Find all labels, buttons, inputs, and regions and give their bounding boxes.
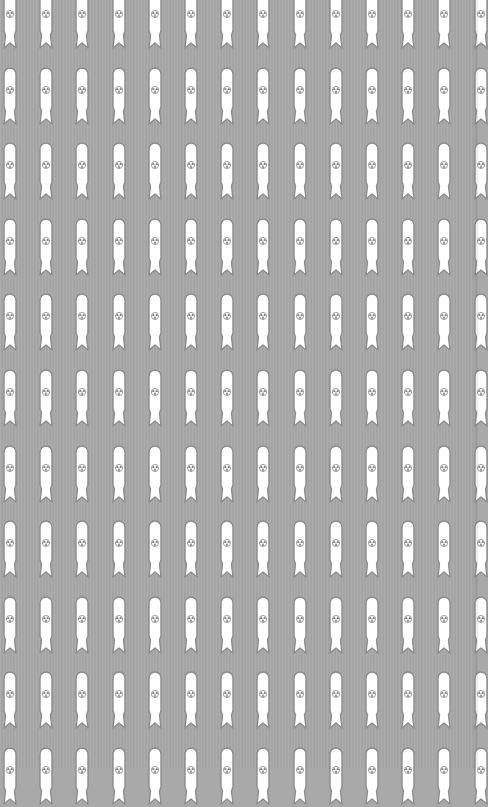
bomb-icon bbox=[401, 671, 415, 731]
bomb-body bbox=[4, 219, 16, 275]
bomb-body bbox=[221, 294, 233, 350]
bomb-icon bbox=[112, 0, 126, 51]
bomb-icon bbox=[3, 369, 17, 429]
bomb-body bbox=[438, 219, 450, 275]
bomb-tile bbox=[437, 520, 451, 580]
bomb-body bbox=[149, 294, 161, 350]
bomb-body bbox=[366, 68, 378, 124]
bomb-icon bbox=[256, 67, 270, 127]
bomb-tile bbox=[365, 0, 379, 51]
bomb-icon bbox=[75, 596, 89, 656]
bomb-tile bbox=[39, 369, 53, 429]
bomb-icon bbox=[220, 747, 234, 807]
bomb-body bbox=[402, 68, 414, 124]
bomb-tile bbox=[437, 293, 451, 353]
bomb-icon bbox=[293, 747, 307, 807]
bomb-icon bbox=[39, 142, 53, 202]
bomb-icon bbox=[148, 671, 162, 731]
bomb-icon bbox=[293, 142, 307, 202]
bomb-body bbox=[149, 672, 161, 728]
bomb-tile bbox=[401, 142, 415, 202]
bomb-icon bbox=[220, 142, 234, 202]
bomb-body bbox=[330, 597, 342, 653]
bomb-body bbox=[257, 219, 269, 275]
bomb-tile bbox=[39, 520, 53, 580]
bomb-body bbox=[257, 143, 269, 199]
bomb-tile bbox=[329, 218, 343, 278]
bomb-icon bbox=[256, 671, 270, 731]
bomb-body bbox=[221, 521, 233, 577]
bomb-tile bbox=[148, 293, 162, 353]
bomb-icon bbox=[3, 747, 17, 807]
bomb-icon bbox=[148, 520, 162, 580]
bomb-tile bbox=[184, 0, 198, 51]
bomb-body bbox=[402, 370, 414, 426]
bomb-tile bbox=[39, 596, 53, 656]
bomb-body bbox=[438, 143, 450, 199]
bomb-icon bbox=[293, 218, 307, 278]
bomb-body bbox=[257, 68, 269, 124]
bomb-icon bbox=[437, 369, 451, 429]
bomb-tile bbox=[365, 596, 379, 656]
bomb-icon bbox=[220, 445, 234, 505]
bomb-icon bbox=[365, 747, 379, 807]
bomb-tile bbox=[184, 596, 198, 656]
bomb-tile bbox=[220, 218, 234, 278]
bomb-body bbox=[294, 143, 306, 199]
bomb-body bbox=[76, 68, 88, 124]
bomb-tile bbox=[184, 218, 198, 278]
bomb-tile bbox=[220, 520, 234, 580]
bomb-tile bbox=[329, 596, 343, 656]
bomb-icon bbox=[148, 293, 162, 353]
bomb-tile bbox=[220, 293, 234, 353]
bomb-icon bbox=[220, 67, 234, 127]
bomb-tile bbox=[256, 218, 270, 278]
bomb-icon bbox=[365, 369, 379, 429]
bomb-icon bbox=[75, 369, 89, 429]
bomb-tile bbox=[75, 293, 89, 353]
bomb-icon bbox=[256, 445, 270, 505]
bomb-body bbox=[4, 0, 16, 48]
bomb-icon bbox=[256, 596, 270, 656]
bomb-tile bbox=[220, 142, 234, 202]
bomb-tile bbox=[293, 0, 307, 51]
bomb-icon bbox=[293, 67, 307, 127]
bomb-tile bbox=[401, 520, 415, 580]
bomb-body bbox=[294, 748, 306, 804]
bomb-tile bbox=[39, 218, 53, 278]
bomb-body bbox=[330, 672, 342, 728]
bomb-body bbox=[366, 219, 378, 275]
bomb-tile bbox=[293, 520, 307, 580]
bomb-tile bbox=[365, 218, 379, 278]
bomb-icon bbox=[3, 520, 17, 580]
bomb-body bbox=[185, 748, 197, 804]
bomb-body bbox=[4, 748, 16, 804]
bomb-icon bbox=[293, 596, 307, 656]
bomb-icon bbox=[329, 67, 343, 127]
bomb-icon bbox=[329, 520, 343, 580]
bomb-tile bbox=[3, 671, 17, 731]
bomb-icon bbox=[39, 747, 53, 807]
bomb-icon bbox=[220, 0, 234, 51]
bomb-tile bbox=[220, 596, 234, 656]
bomb-tile bbox=[437, 445, 451, 505]
bomb-icon bbox=[437, 142, 451, 202]
bomb-tile bbox=[148, 67, 162, 127]
bomb-body bbox=[402, 446, 414, 502]
bomb-body bbox=[294, 219, 306, 275]
bomb-icon bbox=[401, 293, 415, 353]
bomb-icon bbox=[401, 218, 415, 278]
bomb-icon bbox=[329, 445, 343, 505]
bomb-icon bbox=[437, 218, 451, 278]
bomb-tile bbox=[148, 596, 162, 656]
bomb-icon bbox=[365, 67, 379, 127]
bomb-icon bbox=[184, 445, 198, 505]
bomb-body bbox=[402, 143, 414, 199]
bomb-icon bbox=[256, 369, 270, 429]
bomb-body bbox=[149, 446, 161, 502]
bomb-icon bbox=[184, 293, 198, 353]
bomb-body bbox=[4, 672, 16, 728]
bomb-body bbox=[113, 68, 125, 124]
bomb-body bbox=[113, 0, 125, 48]
bomb-body bbox=[40, 446, 52, 502]
